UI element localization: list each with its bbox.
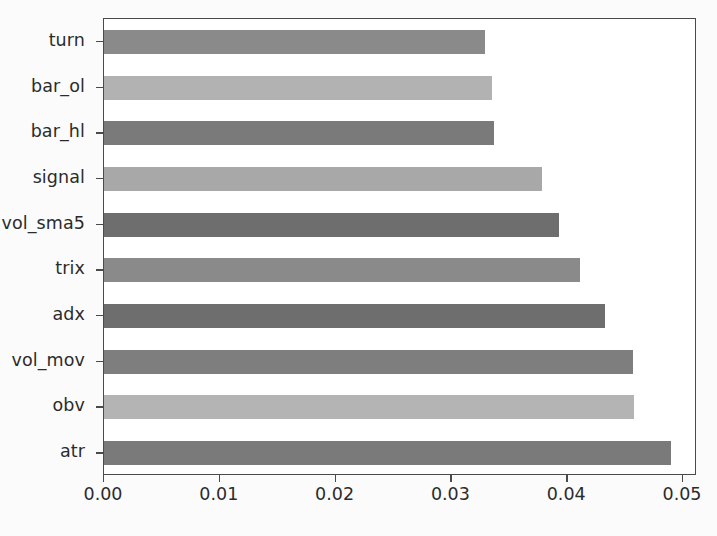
y-tick-label-atr: atr xyxy=(0,441,95,461)
y-tick-mark xyxy=(96,224,103,225)
bar-fill xyxy=(104,76,492,100)
y-tick-label-bar_ol: bar_ol xyxy=(0,76,95,96)
bar-fill xyxy=(104,350,633,374)
bar-fill xyxy=(104,441,671,465)
bar-fill xyxy=(104,258,580,282)
y-tick-label-adx: adx xyxy=(0,304,95,324)
x-tick-mark xyxy=(103,475,104,482)
y-tick-mark xyxy=(96,41,103,42)
y-tick-label-vol_mov: vol_mov xyxy=(0,350,95,370)
bar-fill xyxy=(104,213,559,237)
plot-area xyxy=(103,18,696,475)
bar-bar_hl xyxy=(104,121,494,145)
y-tick-mark xyxy=(96,452,103,453)
y-tick-mark xyxy=(96,406,103,407)
x-tick-mark xyxy=(682,475,683,482)
x-tick-label-0.03: 0.03 xyxy=(431,484,470,504)
y-tick-mark xyxy=(96,132,103,133)
bar-turn xyxy=(104,30,485,54)
bar-atr xyxy=(104,441,671,465)
x-tick-label-0.04: 0.04 xyxy=(547,484,586,504)
x-tick-label-0.01: 0.01 xyxy=(199,484,238,504)
x-tick-mark xyxy=(219,475,220,482)
x-tick-label-0.05: 0.05 xyxy=(663,484,702,504)
y-tick-mark xyxy=(96,269,103,270)
bar-bar_ol xyxy=(104,76,492,100)
y-tick-mark xyxy=(96,87,103,88)
x-tick-label-0.02: 0.02 xyxy=(315,484,354,504)
bar-fill xyxy=(104,121,494,145)
y-tick-label-vol_sma5: vol_sma5 xyxy=(0,213,95,233)
y-tick-label-signal: signal xyxy=(0,167,95,187)
y-axis-tick-labels: turnbar_olbar_hlsignalvol_sma5trixadxvol… xyxy=(0,18,95,475)
y-tick-label-bar_hl: bar_hl xyxy=(0,121,95,141)
bar-fill xyxy=(104,30,485,54)
y-tick-label-trix: trix xyxy=(0,258,95,278)
bar-obv xyxy=(104,395,634,419)
x-tick-mark xyxy=(450,475,451,482)
bar-vol_mov xyxy=(104,350,633,374)
y-tick-mark xyxy=(96,361,103,362)
y-tick-label-obv: obv xyxy=(0,395,95,415)
bar-vol_sma5 xyxy=(104,213,559,237)
x-tick-mark xyxy=(566,475,567,482)
y-tick-label-turn: turn xyxy=(0,30,95,50)
bar-fill xyxy=(104,395,634,419)
bar-fill xyxy=(104,167,542,191)
x-tick-label-0.00: 0.00 xyxy=(84,484,123,504)
bar-adx xyxy=(104,304,605,328)
bar-signal xyxy=(104,167,542,191)
bar-chart-figure: turnbar_olbar_hlsignalvol_sma5trixadxvol… xyxy=(0,0,717,536)
y-tick-mark xyxy=(96,178,103,179)
y-tick-mark xyxy=(96,315,103,316)
x-tick-mark xyxy=(335,475,336,482)
bar-trix xyxy=(104,258,580,282)
bar-fill xyxy=(104,304,605,328)
